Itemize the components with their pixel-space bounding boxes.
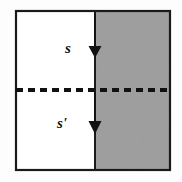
lower-arrow-label: s' <box>56 115 67 131</box>
figure-canvas: s s' <box>0 0 182 182</box>
figure-container: s s' <box>0 0 182 182</box>
upper-arrow-label: s <box>64 40 71 56</box>
